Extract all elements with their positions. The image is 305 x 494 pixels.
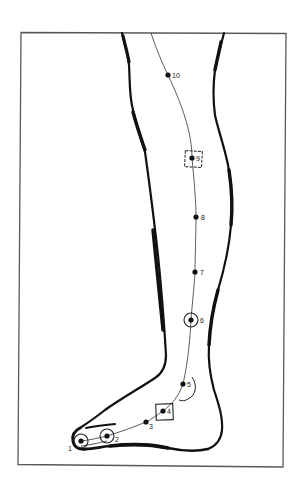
- point-label: 8: [201, 214, 205, 221]
- point-label: 10: [172, 72, 180, 79]
- point-label: 6: [200, 317, 204, 324]
- acupoint-4: 4: [156, 404, 174, 421]
- meridian-line: [81, 33, 196, 441]
- acupoint-7: 7: [192, 269, 204, 276]
- point-dot-icon: [188, 317, 193, 322]
- point-label: 5: [187, 381, 191, 388]
- acupoint-3: 3: [143, 419, 153, 430]
- calf-outline-bold: [209, 42, 232, 345]
- toe-top-outline: [86, 424, 115, 428]
- point-dot-icon: [180, 381, 185, 386]
- acupoint-6: 6: [184, 313, 204, 327]
- point-label: 3: [149, 423, 153, 430]
- acupoint-2: 2: [100, 429, 119, 443]
- point-dot-icon: [165, 72, 170, 77]
- point-dot-icon: [160, 408, 165, 413]
- point-dot-icon: [104, 433, 109, 438]
- acupoint-10: 10: [165, 72, 179, 79]
- shin-outline-bold-lower: [133, 112, 163, 330]
- point-dot-icon: [192, 269, 197, 274]
- point-label: 9: [196, 155, 200, 162]
- point-dot-icon: [189, 155, 194, 160]
- leg-meridian-diagram: 12345678910: [0, 0, 305, 494]
- sole-outline-bold: [110, 445, 168, 448]
- point-dot-icon: [78, 438, 83, 443]
- calf-outline: [208, 33, 232, 449]
- point-label: 4: [167, 408, 171, 415]
- point-dot-icon: [193, 214, 198, 219]
- point-label: 2: [115, 436, 119, 443]
- acupoint-9: 9: [185, 151, 203, 168]
- point-label: 7: [200, 269, 204, 276]
- point-dot-icon: [143, 419, 148, 424]
- diagram-frame: [18, 33, 286, 468]
- acupoint-8: 8: [193, 214, 205, 221]
- point-label: 1: [68, 445, 72, 452]
- shin-outline-bold: [123, 36, 129, 62]
